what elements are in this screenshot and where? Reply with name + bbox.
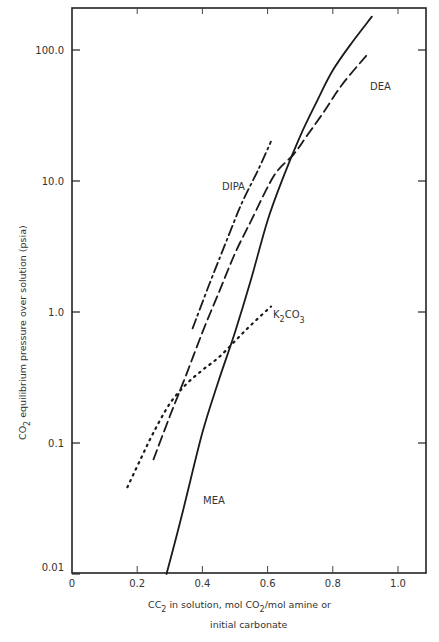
curves <box>127 17 372 574</box>
label-k2co3: K2CO3 <box>273 309 305 325</box>
y-tick-label: 0.01 <box>42 562 64 573</box>
y-tick-label: 0.1 <box>48 438 64 449</box>
y-tick-label: 1.0 <box>48 307 64 318</box>
curve-dea <box>154 53 369 460</box>
label-dea: DEA <box>370 81 391 92</box>
y-axis-title: CO2 equilibrium pressure over solution (… <box>17 225 32 440</box>
x-axis-title-line2: initial carbonate <box>210 619 288 630</box>
x-axis-title-line1: CC2 in solution, mol CO2/mol amine or <box>148 599 331 614</box>
x-axis-ticks: 00.20.40.60.81.0 <box>69 8 406 589</box>
x-tick-label: 0.4 <box>194 578 210 589</box>
curve-kco <box>127 307 271 488</box>
y-axis-ticks: 0.010.11.010.0100.0 <box>35 45 426 574</box>
x-tick-label: 1.0 <box>390 578 406 589</box>
y-tick-label: 10.0 <box>42 176 64 187</box>
x-tick-label: 0.2 <box>129 578 145 589</box>
x-tick-label: 0.8 <box>325 578 341 589</box>
x-tick-label: 0 <box>69 578 75 589</box>
chart: 0.010.11.010.0100.0 00.20.40.60.81.0 MEA… <box>0 0 439 642</box>
label-mea: MEA <box>203 495 225 506</box>
curve-dipa <box>193 142 271 329</box>
label-dipa: DIPA <box>222 181 245 192</box>
y-tick-label: 100.0 <box>35 45 64 56</box>
curve-mea <box>167 17 372 574</box>
plot-frame <box>72 8 426 573</box>
x-tick-label: 0.6 <box>260 578 276 589</box>
